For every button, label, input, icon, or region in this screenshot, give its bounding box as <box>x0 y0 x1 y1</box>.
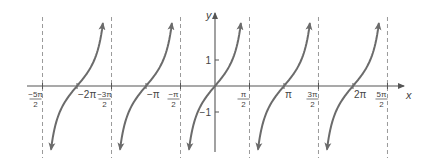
svg-text:π: π <box>241 90 247 99</box>
svg-text:2: 2 <box>241 100 246 109</box>
x-tick-fraction-label: π2 <box>237 90 249 109</box>
x-tick-label: −π <box>147 89 160 100</box>
svg-text:2: 2 <box>310 100 315 109</box>
svg-text:3π: 3π <box>307 90 317 99</box>
x-axis-label: x <box>405 89 412 101</box>
x-tick-label: −2π <box>78 89 96 100</box>
axis-labels: yx1−1−5π2−2π−3π2−π−π2π2π3π22π5π2 <box>28 9 412 118</box>
y-axis-label: y <box>205 9 213 21</box>
x-tick-label: 2π <box>354 89 367 100</box>
y-tick-label: −1 <box>200 107 212 118</box>
svg-text:2: 2 <box>171 100 176 109</box>
x-tick-fraction-label: −π2 <box>168 90 180 109</box>
axes <box>27 13 404 152</box>
svg-text:−π: −π <box>168 90 179 99</box>
svg-text:2: 2 <box>33 100 38 109</box>
svg-text:−5π: −5π <box>28 90 43 99</box>
svg-text:2: 2 <box>102 100 107 109</box>
x-tick-fraction-label: −5π2 <box>28 90 43 109</box>
x-tick-label: π <box>285 89 292 100</box>
x-tick-fraction-label: 3π2 <box>306 90 318 109</box>
svg-text:−3π: −3π <box>97 90 112 99</box>
svg-text:2: 2 <box>379 100 384 109</box>
x-tick-fraction-label: 5π2 <box>375 90 387 109</box>
x-tick-fraction-label: −3π2 <box>97 90 112 109</box>
svg-text:5π: 5π <box>376 90 386 99</box>
tangent-chart: yx1−1−5π2−2π−3π2−π−π2π2π3π22π5π2 <box>0 0 424 164</box>
y-tick-label: 1 <box>205 55 211 66</box>
